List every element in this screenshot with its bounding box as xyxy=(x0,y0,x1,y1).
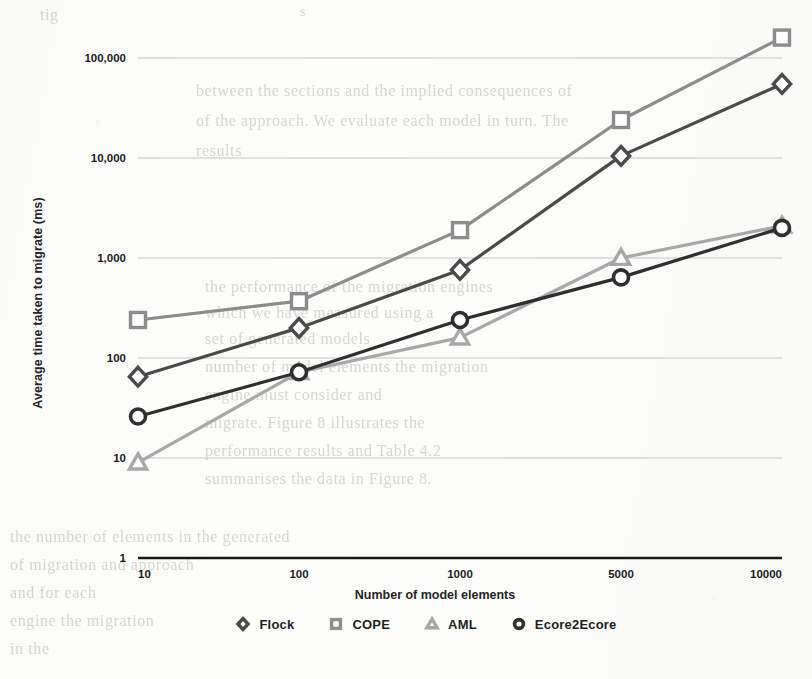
square-marker-icon xyxy=(328,616,344,632)
legend-label: Ecore2Ecore xyxy=(535,617,617,632)
y-axis-tick-labels: 100,00010,0001,000100101 xyxy=(84,52,126,564)
legend-item-aml[interactable]: AML xyxy=(424,616,477,632)
y-axis-tick-label: 10 xyxy=(113,452,126,464)
x-axis-title: Number of model elements xyxy=(0,588,812,602)
triangle-marker-icon xyxy=(451,329,468,344)
y-axis-title: Average time taken to migrate (ms) xyxy=(31,153,45,453)
legend-label: Flock xyxy=(259,617,294,632)
triangle-marker-icon xyxy=(129,454,146,469)
square-marker-icon xyxy=(292,294,307,309)
y-axis-tick-label: 10,000 xyxy=(91,152,126,164)
triangle-marker-icon xyxy=(427,619,437,628)
diamond-marker-icon xyxy=(451,261,468,280)
y-axis-tick-label: 1 xyxy=(120,552,127,564)
legend-item-flock[interactable]: Flock xyxy=(235,616,294,632)
circle-marker-icon xyxy=(514,620,523,629)
x-axis-tick-label: 5000 xyxy=(608,568,634,580)
y-axis-tick-label: 1,000 xyxy=(97,252,126,264)
diamond-marker-icon xyxy=(238,619,248,630)
circle-marker-icon xyxy=(775,220,790,235)
legend-item-cope[interactable]: COPE xyxy=(328,616,390,632)
square-marker-icon xyxy=(131,312,146,327)
diamond-marker-icon xyxy=(612,147,629,166)
x-axis-tick-labels: 101001000500010000 xyxy=(138,568,782,580)
diamond-marker-icon xyxy=(129,367,146,386)
legend-label: COPE xyxy=(352,617,390,632)
x-axis-tick-label: 1000 xyxy=(447,568,473,580)
circle-marker-icon xyxy=(614,270,629,285)
diamond-marker-icon xyxy=(773,75,790,94)
circle-marker-icon xyxy=(453,312,468,327)
chart-canvas: 100,00010,0001,000100101 101001000500010… xyxy=(0,0,812,679)
square-marker-icon xyxy=(614,112,629,127)
square-marker-icon xyxy=(453,223,468,238)
legend-label: AML xyxy=(448,617,477,632)
diamond-marker-icon xyxy=(235,616,251,632)
circle-marker-icon xyxy=(131,409,146,424)
x-axis-tick-label: 100 xyxy=(289,568,308,580)
y-axis-tick-label: 100,000 xyxy=(84,52,126,64)
diamond-marker-icon xyxy=(290,319,307,338)
circle-marker-icon xyxy=(511,616,527,632)
series-ecore2ecore xyxy=(131,220,790,424)
legend-item-ecore2ecore[interactable]: Ecore2Ecore xyxy=(511,616,617,632)
triangle-marker-icon xyxy=(612,249,629,264)
triangle-marker-icon xyxy=(424,616,440,632)
square-marker-icon xyxy=(332,620,341,629)
x-axis-tick-label: 10 xyxy=(138,568,151,580)
x-axis-tick-label: 10000 xyxy=(750,568,782,580)
square-marker-icon xyxy=(775,30,790,45)
data-series-lines xyxy=(129,30,790,469)
migration-performance-chart: 100,00010,0001,000100101 101001000500010… xyxy=(0,0,812,679)
chart-legend: FlockCOPEAMLEcore2Ecore xyxy=(0,616,812,632)
y-axis-tick-label: 100 xyxy=(107,352,126,364)
circle-marker-icon xyxy=(292,365,307,380)
series-cope xyxy=(131,30,790,327)
